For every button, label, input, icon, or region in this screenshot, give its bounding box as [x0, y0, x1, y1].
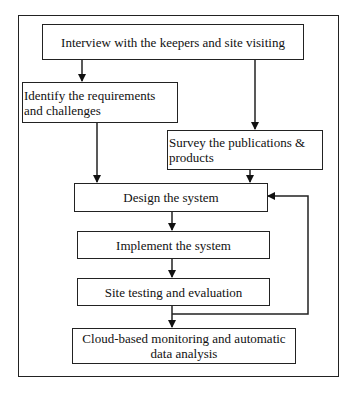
node-survey: Survey the publications & products	[167, 130, 323, 170]
node-design-label: Design the system	[123, 190, 218, 205]
node-implement-label: Implement the system	[116, 238, 231, 253]
node-survey-label: Survey the publications & products	[169, 135, 305, 165]
node-identify-label: Identify the requirements and challenges	[24, 88, 155, 118]
node-testing-label: Site testing and evaluation	[105, 285, 243, 300]
node-identify: Identify the requirements and challenges	[22, 82, 178, 123]
node-survey-line-2: products	[169, 150, 214, 165]
node-interview: Interview with the keepers and site visi…	[42, 24, 304, 60]
node-implement: Implement the system	[77, 231, 270, 259]
node-identify-line-1: Identify the requirements	[24, 88, 155, 103]
node-survey-line-1: Survey the publications &	[169, 135, 305, 150]
node-cloud-line-2: data analysis	[151, 346, 218, 361]
node-cloud-line-1: Cloud-based monitoring and automatic	[82, 331, 285, 346]
node-testing: Site testing and evaluation	[77, 278, 270, 306]
node-identify-line-2: and challenges	[24, 103, 101, 118]
node-interview-label: Interview with the keepers and site visi…	[61, 35, 285, 50]
node-design: Design the system	[74, 183, 268, 212]
node-cloud-label: Cloud-based monitoring and automatic dat…	[82, 331, 285, 361]
node-cloud: Cloud-based monitoring and automatic dat…	[72, 328, 296, 364]
